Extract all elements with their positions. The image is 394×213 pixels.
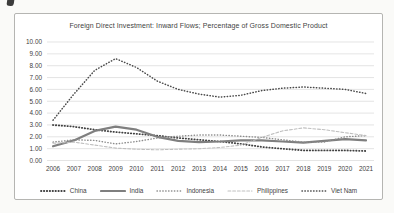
y-tick-label: 8.00 bbox=[30, 62, 43, 69]
legend-line-sample bbox=[156, 188, 182, 194]
legend-label: Philippines bbox=[257, 187, 288, 194]
scanned-chart-screenshot: Foreign Direct Investment: Inward Flows;… bbox=[0, 0, 394, 213]
x-tick-label: 2008 bbox=[88, 165, 103, 172]
x-tick-label: 2015 bbox=[234, 165, 249, 172]
legend-item-indonesia: Indonesia bbox=[156, 187, 214, 194]
x-tick-label: 2018 bbox=[296, 165, 311, 172]
x-tick-label: 2012 bbox=[171, 165, 186, 172]
legend-item-india: India bbox=[100, 187, 144, 194]
y-tick-label: 4.00 bbox=[30, 109, 43, 116]
x-tick-label: 2021 bbox=[359, 165, 374, 172]
x-tick-label: 2017 bbox=[275, 165, 290, 172]
series-line-philippines bbox=[53, 128, 366, 150]
chart-frame: Foreign Direct Investment: Inward Flows;… bbox=[14, 13, 383, 200]
legend-line-sample bbox=[227, 188, 253, 194]
x-tick-label: 2011 bbox=[150, 165, 164, 172]
x-tick-label: 2014 bbox=[213, 165, 228, 172]
legend-label: Viet Nam bbox=[331, 187, 357, 194]
y-tick-label: 6.00 bbox=[30, 86, 43, 93]
x-tick-label: 2013 bbox=[192, 165, 207, 172]
y-tick-label: 9.00 bbox=[30, 50, 43, 57]
legend-label: Indonesia bbox=[186, 187, 214, 194]
chart-plot-area: 0.001.002.003.004.005.006.007.008.009.00… bbox=[15, 14, 382, 199]
y-tick-label: 3.00 bbox=[30, 121, 43, 128]
x-tick-label: 2010 bbox=[129, 165, 144, 172]
y-tick-label: 0.00 bbox=[30, 157, 43, 164]
legend-item-philippines: Philippines bbox=[227, 187, 288, 194]
legend-item-viet-nam: Viet Nam bbox=[301, 187, 357, 194]
chart-legend: ChinaIndiaIndonesiaPhilippinesViet Nam bbox=[15, 187, 382, 194]
x-tick-label: 2006 bbox=[46, 165, 61, 172]
legend-label: India bbox=[130, 187, 144, 194]
legend-item-china: China bbox=[40, 187, 87, 194]
x-tick-label: 2020 bbox=[338, 165, 353, 172]
x-tick-label: 2007 bbox=[67, 165, 82, 172]
x-tick-label: 2009 bbox=[108, 165, 123, 172]
legend-line-sample bbox=[100, 188, 126, 194]
y-tick-label: 2.00 bbox=[30, 133, 43, 140]
x-tick-label: 2016 bbox=[255, 165, 270, 172]
y-tick-label: 1.00 bbox=[30, 145, 43, 152]
y-tick-label: 5.00 bbox=[30, 98, 43, 105]
scan-corner-mark bbox=[6, 0, 14, 6]
legend-line-sample bbox=[301, 188, 327, 194]
y-tick-label: 7.00 bbox=[30, 74, 43, 81]
legend-label: China bbox=[70, 187, 87, 194]
legend-line-sample bbox=[40, 188, 66, 194]
x-tick-label: 2019 bbox=[317, 165, 332, 172]
y-tick-label: 10.00 bbox=[26, 38, 42, 45]
